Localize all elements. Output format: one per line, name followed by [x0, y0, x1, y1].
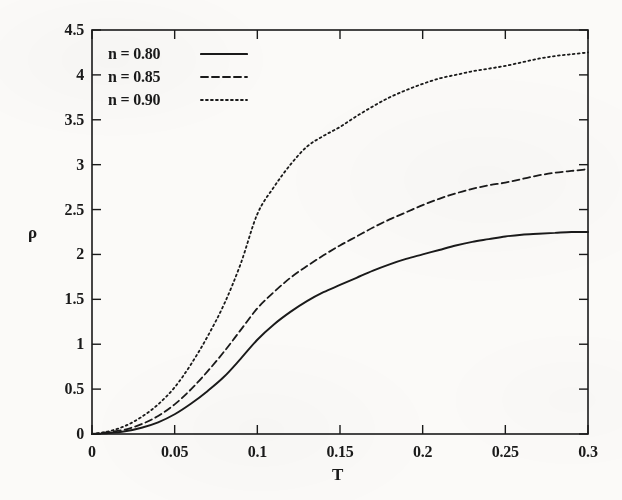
series-line-0 [92, 232, 588, 434]
y-tick-label: 3 [40, 157, 84, 173]
series-line-2 [92, 52, 588, 434]
y-tick-label: 2.5 [40, 202, 84, 218]
y-tick-label: 4 [40, 67, 84, 83]
y-tick-label: 3.5 [40, 112, 84, 128]
y-axis-title: ρ [28, 224, 37, 241]
legend-entry: n = 0.80 [108, 44, 248, 63]
x-tick-label: 0.15 [310, 444, 370, 460]
x-tick-label: 0.1 [227, 444, 287, 460]
legend-line-sample [200, 93, 248, 107]
x-tick-label: 0.2 [393, 444, 453, 460]
chart-figure: 00.511.522.533.544.5 00.050.10.150.20.25… [0, 0, 622, 500]
y-tick-label: 2 [40, 246, 84, 262]
y-tick-label: 4.5 [40, 22, 84, 38]
x-tick-label: 0.05 [145, 444, 205, 460]
x-tick-label: 0.3 [558, 444, 618, 460]
series-lines [92, 52, 588, 434]
legend-label: n = 0.90 [108, 91, 192, 109]
legend-line-sample [200, 47, 248, 61]
y-tick-label: 0.5 [40, 381, 84, 397]
legend-line-sample [200, 70, 248, 84]
legend-label: n = 0.80 [108, 45, 192, 63]
legend-entry: n = 0.85 [108, 67, 248, 86]
legend-label: n = 0.85 [108, 68, 192, 86]
plot-canvas [0, 0, 622, 500]
x-tick-label: 0.25 [475, 444, 535, 460]
y-tick-label: 1.5 [40, 291, 84, 307]
series-line-1 [92, 169, 588, 434]
y-tick-label: 0 [40, 426, 84, 442]
y-tick-label: 1 [40, 336, 84, 352]
x-tick-label: 0 [62, 444, 122, 460]
x-axis-title: T [332, 466, 343, 483]
legend: n = 0.80n = 0.85n = 0.90 [108, 44, 248, 109]
legend-entry: n = 0.90 [108, 90, 248, 109]
